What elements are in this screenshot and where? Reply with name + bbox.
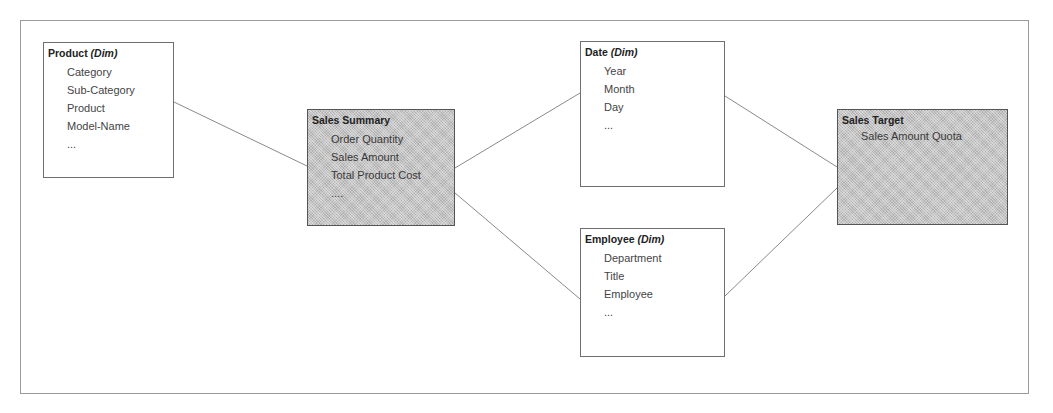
link-sales-summary-employee xyxy=(455,193,580,299)
entity-name: Date xyxy=(585,46,608,58)
entity-title: Sales Target xyxy=(842,113,1003,127)
link-employee-sales-target xyxy=(725,188,837,296)
attribute-item: Title xyxy=(604,267,720,285)
attribute-item: Sales Amount xyxy=(331,148,450,166)
attribute-item: Day xyxy=(604,98,720,116)
attribute-item: Employee xyxy=(604,285,720,303)
entity-product: Product (Dim) Category Sub-Category Prod… xyxy=(43,42,174,178)
attribute-item: Sales Amount Quota xyxy=(861,127,1003,145)
attribute-item: ... xyxy=(604,116,720,134)
link-date-sales-target xyxy=(725,96,837,167)
attribute-item: Total Product Cost xyxy=(331,166,450,184)
attribute-item: ... xyxy=(604,303,720,321)
entity-name: Sales Summary xyxy=(312,114,390,126)
entity-date: Date (Dim) Year Month Day ... xyxy=(580,41,725,187)
attribute-item: Sub-Category xyxy=(67,81,169,99)
entity-sales-summary: Sales Summary Order Quantity Sales Amoun… xyxy=(307,109,455,226)
entity-tag: (Dim) xyxy=(91,47,118,59)
attribute-list: Department Title Employee ... xyxy=(585,249,720,321)
link-sales-summary-date xyxy=(455,93,580,168)
entity-tag: (Dim) xyxy=(638,233,665,245)
attribute-item: Model-Name xyxy=(67,117,169,135)
entity-name: Product xyxy=(48,47,88,59)
attribute-item: Product xyxy=(67,99,169,117)
entity-title: Employee (Dim) xyxy=(585,232,720,246)
entity-title: Date (Dim) xyxy=(585,45,720,59)
entity-name: Sales Target xyxy=(842,114,904,126)
entity-tag: (Dim) xyxy=(611,46,638,58)
attribute-item: Month xyxy=(604,80,720,98)
attribute-item: Category xyxy=(67,63,169,81)
attribute-item: Order Quantity xyxy=(331,130,450,148)
attribute-item: Department xyxy=(604,249,720,267)
attribute-list: Order Quantity Sales Amount Total Produc… xyxy=(312,130,450,202)
entity-title: Product (Dim) xyxy=(48,46,169,60)
entity-name: Employee xyxy=(585,233,635,245)
attribute-item: .... xyxy=(331,184,450,202)
entity-sales-target: Sales Target Sales Amount Quota xyxy=(837,109,1008,225)
entity-employee: Employee (Dim) Department Title Employee… xyxy=(580,228,725,357)
attribute-list: Year Month Day ... xyxy=(585,62,720,134)
attribute-item: Year xyxy=(604,62,720,80)
attribute-list: Sales Amount Quota xyxy=(842,127,1003,145)
attribute-list: Category Sub-Category Product Model-Name… xyxy=(48,63,169,153)
link-product-sales-summary xyxy=(174,102,307,166)
entity-title: Sales Summary xyxy=(312,113,450,127)
attribute-item: ... xyxy=(67,135,169,153)
